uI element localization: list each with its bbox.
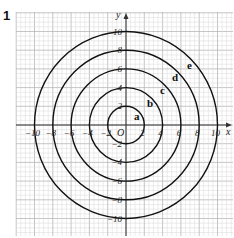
origin-label: O [117, 127, 124, 138]
y-tick-label: −8 [111, 195, 122, 205]
x-tick-label: −4 [82, 128, 93, 138]
y-axis-label: y [115, 9, 121, 20]
x-tick-label: −6 [64, 128, 75, 138]
x-axis-label: x [225, 126, 231, 137]
x-tick-label: 10 [211, 128, 221, 138]
circle-label-a: a [134, 110, 140, 122]
y-tick-label: 8 [118, 45, 123, 55]
x-tick-label: 2 [140, 128, 145, 138]
grid-lines [16, 12, 233, 236]
circle-label-d: d [172, 71, 178, 83]
y-tick-label: −2 [111, 139, 122, 149]
question-number: 1 [3, 8, 10, 23]
y-axis-arrow-icon [124, 13, 129, 19]
y-tick-label: 10 [113, 27, 123, 37]
circle-label-b: b [147, 97, 153, 109]
x-tick-label: 6 [177, 128, 182, 138]
circle-label-c: c [160, 84, 165, 96]
y-tick-label: −4 [111, 157, 122, 167]
y-tick-label: −10 [107, 214, 123, 224]
y-tick-label: 2 [118, 101, 123, 111]
coordinate-grid: −10−8−6−4−2246810108642−2−4−6−8−10Oxyabc… [0, 0, 234, 238]
circle-label-e: e [187, 59, 192, 71]
x-tick-label: 4 [158, 128, 163, 138]
x-tick-label: −10 [25, 128, 41, 138]
y-tick-label: 4 [118, 83, 123, 93]
y-tick-label: −6 [111, 176, 122, 186]
x-tick-label: 8 [195, 128, 200, 138]
x-tick-label: −8 [46, 128, 57, 138]
concentric-circles-figure: 1 −10−8−6−4−2246810108642−2−4−6−8−10Oxya… [0, 0, 234, 238]
y-tick-label: 6 [118, 64, 123, 74]
x-tick-label: −2 [100, 128, 111, 138]
